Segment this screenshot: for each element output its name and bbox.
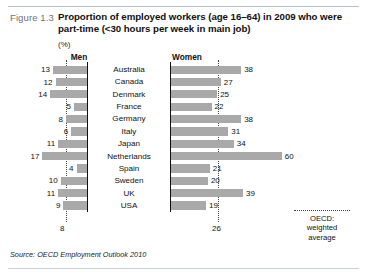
reference-value-men: 8 (60, 224, 64, 233)
bar-women (171, 189, 243, 197)
bar-men (71, 127, 87, 135)
bar-men (66, 115, 87, 123)
bar-men (74, 103, 87, 111)
bar-men (58, 189, 87, 197)
value-label-women: 31 (231, 127, 240, 136)
bar-women (171, 177, 208, 185)
legend: OECD: weighted average (289, 210, 355, 242)
bar-men (42, 152, 87, 160)
men-bar-cell: 5 (0, 101, 87, 113)
chart-row: 6Italy31 (0, 126, 367, 138)
country-label: Italy (88, 127, 170, 136)
value-label-women: 25 (220, 90, 229, 99)
chart-row: 11Japan34 (0, 138, 367, 150)
bar-women (171, 140, 234, 148)
country-label: Japan (88, 139, 170, 148)
unit-label: (%) (58, 40, 70, 49)
title-block: Figure 1.3 Proportion of employed worker… (10, 11, 358, 34)
bar-women (171, 90, 217, 98)
figure-container: Figure 1.3 Proportion of employed worker… (0, 0, 367, 277)
women-bar-cell: 34 (171, 138, 367, 150)
men-bar-cell: 9 (0, 200, 87, 212)
men-bar-cell: 12 (0, 76, 87, 88)
value-label-women: 20 (211, 176, 220, 185)
value-label-men: 6 (64, 127, 68, 136)
men-bar-cell: 11 (0, 138, 87, 150)
chart-row: 5France22 (0, 101, 367, 113)
country-label: Canada (88, 77, 170, 86)
figure-number-label: Figure 1.3 (10, 12, 54, 23)
country-label: Denmark (88, 90, 170, 99)
women-bar-cell: 22 (171, 101, 367, 113)
chart-row: 11UK39 (0, 187, 367, 199)
figure-title: Proportion of employed workers (age 16–6… (58, 11, 358, 34)
value-label-men: 13 (41, 65, 50, 74)
legend-label-line3: average (289, 233, 355, 242)
men-bar-cell: 13 (0, 64, 87, 76)
women-bar-cell: 25 (171, 89, 367, 101)
men-bar-cell: 14 (0, 89, 87, 101)
value-label-men: 14 (38, 90, 47, 99)
value-label-men: 5 (66, 102, 70, 111)
country-label: Sweden (88, 176, 170, 185)
bar-men (63, 201, 87, 209)
chart-row: 13Australia38 (0, 64, 367, 76)
reference-value-women: 26 (212, 224, 221, 233)
bottom-divider (8, 268, 359, 269)
chart-row: 10Sweden20 (0, 175, 367, 187)
men-bar-cell: 4 (0, 163, 87, 175)
bar-men (77, 164, 88, 172)
value-label-women: 19 (209, 201, 218, 210)
value-label-men: 9 (56, 201, 60, 210)
value-label-women: 22 (215, 102, 224, 111)
chart-rows: 13Australia3812Canada2714Denmark255Franc… (0, 64, 367, 212)
value-label-men: 11 (47, 189, 55, 198)
value-label-men: 12 (44, 78, 53, 87)
chart-row: 4Spain21 (0, 163, 367, 175)
bar-men (61, 177, 87, 185)
bar-women (171, 201, 206, 209)
country-label: France (88, 102, 170, 111)
bar-women (171, 127, 228, 135)
women-bar-cell: 60 (171, 150, 367, 162)
value-label-men: 8 (59, 115, 63, 124)
country-label: Netherlands (88, 152, 170, 161)
bar-men (53, 66, 87, 74)
country-label: UK (88, 189, 170, 198)
legend-dotted-line-icon (294, 210, 350, 211)
legend-label-line1: OECD: (289, 214, 355, 223)
men-bar-cell: 8 (0, 113, 87, 125)
women-bar-cell: 27 (171, 76, 367, 88)
women-bar-cell: 31 (171, 126, 367, 138)
value-label-women: 38 (244, 115, 253, 124)
women-bar-cell: 39 (171, 187, 367, 199)
value-label-men: 11 (47, 139, 55, 148)
country-label: USA (88, 201, 170, 210)
chart-row: 12Canada27 (0, 76, 367, 88)
men-bar-cell: 17 (0, 150, 87, 162)
column-header-men: Men (66, 52, 92, 62)
bar-women (171, 103, 212, 111)
bar-men (56, 78, 88, 86)
value-label-women: 34 (237, 139, 246, 148)
men-bar-cell: 10 (0, 175, 87, 187)
column-header-women: Women (172, 52, 206, 62)
country-label: Spain (88, 164, 170, 173)
bar-women (171, 66, 241, 74)
bar-women (171, 78, 221, 86)
bar-women (171, 115, 241, 123)
women-bar-cell: 21 (171, 163, 367, 175)
bar-women (171, 152, 282, 160)
country-label: Australia (88, 65, 170, 74)
bar-men (58, 140, 87, 148)
legend-label-line2: weighted (289, 223, 355, 232)
value-label-men: 10 (49, 176, 58, 185)
chart-row: 8Germany38 (0, 113, 367, 125)
value-label-women: 21 (213, 164, 222, 173)
country-label: Germany (88, 114, 170, 123)
women-bar-cell: 38 (171, 64, 367, 76)
value-label-men: 17 (30, 152, 39, 161)
value-label-women: 39 (246, 189, 255, 198)
chart-row: 17Netherlands60 (0, 150, 367, 162)
bar-men (50, 90, 87, 98)
